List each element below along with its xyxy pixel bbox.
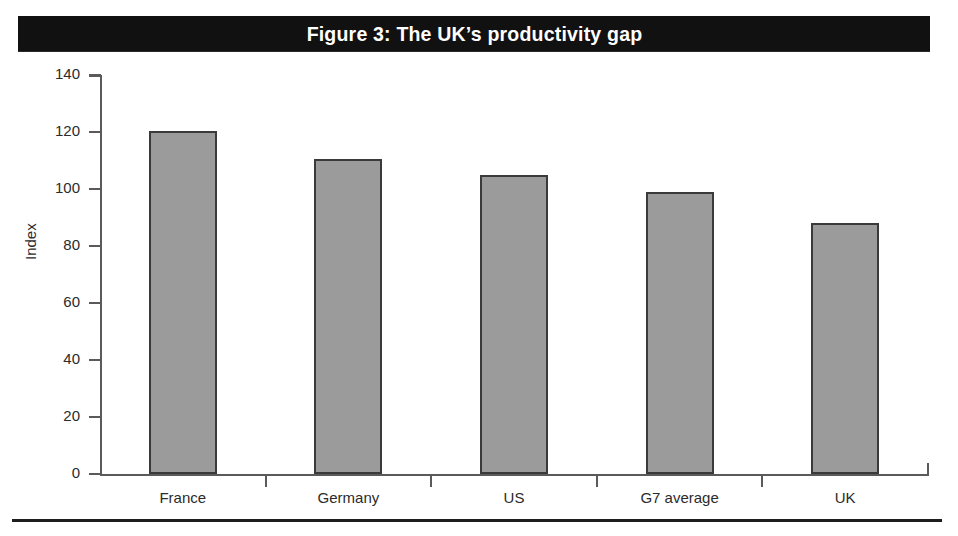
bar-france <box>149 131 217 474</box>
chart-plot-area: Index 020406080100120140 FranceGermanyUS… <box>0 0 958 536</box>
y-tick-label: 140 <box>16 66 80 81</box>
y-tick-label: 100 <box>16 180 80 195</box>
x-axis-right-cap <box>927 463 929 475</box>
y-axis-line <box>100 75 102 475</box>
y-tick-mark <box>89 131 101 133</box>
footer-divider <box>12 519 942 522</box>
x-tick-label: UK <box>762 490 928 507</box>
x-tick-mark <box>430 476 432 487</box>
x-tick-mark <box>761 476 763 487</box>
y-tick-mark <box>89 245 101 247</box>
figure-container: Figure 3: The UK’s productivity gap Inde… <box>0 0 958 536</box>
y-tick-mark <box>89 473 101 475</box>
y-tick-label: 0 <box>16 465 80 480</box>
x-axis-line <box>100 474 929 476</box>
y-tick-mark <box>89 302 101 304</box>
footer-caption-clipped <box>12 530 942 536</box>
y-tick-label-box: 0 <box>16 465 80 481</box>
x-tick-label: US <box>431 490 597 507</box>
y-tick-label-box: 100 <box>16 180 80 196</box>
x-tick-mark <box>596 476 598 487</box>
y-tick-mark <box>89 188 101 190</box>
y-tick-mark <box>89 74 101 76</box>
y-tick-label: 80 <box>16 237 80 252</box>
y-tick-label-box: 120 <box>16 123 80 139</box>
y-tick-label: 40 <box>16 351 80 366</box>
y-tick-label-box: 20 <box>16 408 80 424</box>
y-tick-mark <box>89 359 101 361</box>
y-tick-label: 20 <box>16 408 80 423</box>
y-tick-label: 60 <box>16 294 80 309</box>
bar-uk <box>811 223 879 474</box>
y-tick-label-box: 60 <box>16 294 80 310</box>
y-tick-label-box: 140 <box>16 66 80 82</box>
x-tick-label: G7 average <box>597 490 763 507</box>
bar-germany <box>314 159 382 474</box>
y-tick-label: 120 <box>16 123 80 138</box>
x-tick-label: Germany <box>266 490 432 507</box>
x-tick-label: France <box>100 490 266 507</box>
bar-us <box>480 175 548 474</box>
y-tick-label-box: 40 <box>16 351 80 367</box>
y-tick-label-box: 80 <box>16 237 80 253</box>
x-tick-mark <box>265 476 267 487</box>
y-tick-mark <box>89 416 101 418</box>
bar-g7-average <box>646 192 714 474</box>
